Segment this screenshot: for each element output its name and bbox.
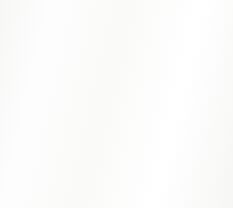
- figure-canvas: [0, 0, 233, 208]
- grid-lines-group: [35, 16, 213, 194]
- hexagon-grid-figure: [0, 0, 233, 208]
